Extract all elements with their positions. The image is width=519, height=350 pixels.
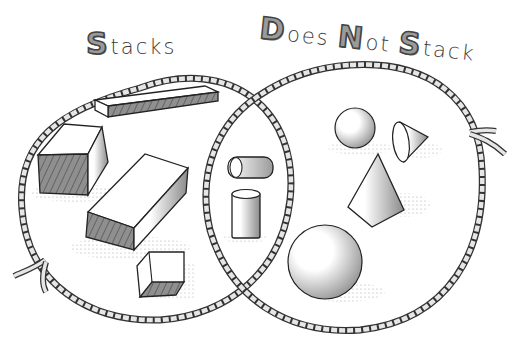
item-lying-cylinder	[228, 157, 273, 178]
venn-diagram-illustration: Stacks DoesNotStack	[0, 0, 519, 350]
label-initial: S	[397, 25, 424, 62]
label-initial: S	[86, 26, 110, 61]
item-tilted-cone	[390, 121, 442, 163]
set-label-stacks: Stacks	[86, 26, 176, 61]
label-rest: ot	[364, 30, 391, 56]
label-initial: D	[258, 10, 288, 48]
label-rest: oes	[286, 22, 331, 50]
label-initial: N	[336, 18, 367, 56]
item-long-block	[95, 86, 218, 117]
label-rest: tack	[422, 36, 477, 65]
item-upright-cylinder	[223, 190, 267, 244]
label-rest: tacks	[111, 35, 177, 59]
item-upright-cone	[348, 154, 430, 227]
item-small-sphere	[328, 108, 392, 155]
item-small-cube	[137, 252, 195, 298]
item-large-sphere	[288, 225, 385, 302]
